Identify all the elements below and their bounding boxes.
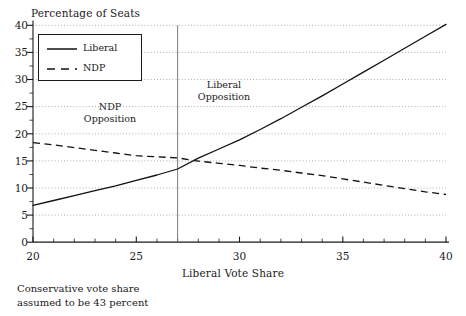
chart-footnote-line1: Conservative vote share (17, 282, 148, 296)
annotation-ndp-opposition: NDP Opposition (84, 101, 136, 125)
y-tick-label-35: 35 (2, 46, 28, 58)
legend-label-liberal: Liberal (83, 42, 117, 53)
y-tick-label-20: 20 (2, 128, 28, 140)
legend-label-ndp: NDP (83, 62, 105, 73)
legend: Liberal NDP (38, 34, 142, 81)
x-tick-label-20: 20 (26, 250, 39, 262)
legend-item-ndp: NDP (39, 61, 143, 77)
chart-figure: Percentage of Seats 40 35 30 25 20 15 10… (0, 0, 466, 316)
y-tick-label-30: 30 (2, 73, 28, 85)
y-tick-label-5: 5 (2, 209, 28, 221)
y-tick-label-15: 15 (2, 155, 28, 167)
chart-footnote: Conservative vote share assumed to be 43… (17, 282, 148, 309)
annotation-ndp-opposition-line2: Opposition (84, 113, 136, 125)
x-tick-label-30: 30 (233, 250, 246, 262)
legend-swatch-solid-icon (47, 48, 77, 50)
annotation-ndp-opposition-line1: NDP (84, 101, 136, 113)
annotation-liberal-opposition-line2: Opposition (198, 91, 250, 103)
series-ndp-line (33, 143, 446, 195)
annotation-liberal-opposition-line1: Liberal (198, 79, 250, 91)
y-tick-label-40: 40 (2, 19, 28, 31)
y-tick-label-0: 0 (2, 236, 28, 248)
legend-swatch-dashed-icon (47, 68, 77, 70)
x-tick-label-25: 25 (130, 250, 143, 262)
y-tick-label-25: 25 (2, 100, 28, 112)
y-tick-label-10: 10 (2, 182, 28, 194)
annotation-liberal-opposition: Liberal Opposition (198, 79, 250, 103)
x-tick-label-40: 40 (439, 250, 452, 262)
x-axis-title: Liberal Vote Share (0, 268, 466, 280)
x-tick-label-35: 35 (336, 250, 349, 262)
chart-footnote-line2: assumed to be 43 percent (17, 296, 148, 310)
legend-item-liberal: Liberal (39, 41, 143, 57)
y-axis-title: Percentage of Seats (31, 8, 140, 20)
